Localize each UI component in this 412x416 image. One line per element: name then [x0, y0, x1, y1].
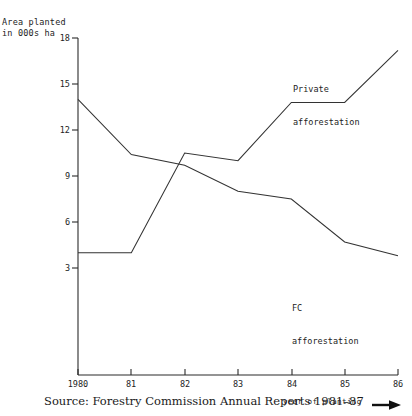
- x-tick-label-86: 86: [386, 379, 410, 389]
- figure-caption: Source: Forestry Commission Annual Repor…: [0, 392, 412, 416]
- x-tick-label-81: 81: [118, 379, 144, 389]
- x-axis-title: year of planting: [283, 397, 362, 406]
- arrow-right-icon: [372, 400, 402, 410]
- y-axis-ticks: [72, 38, 78, 268]
- x-tick-label-83: 83: [225, 379, 251, 389]
- x-tick-label-82: 82: [172, 379, 198, 389]
- y-tick-label-3: 3: [48, 263, 70, 273]
- series-annotation-private-line-2: afforestation: [293, 117, 360, 128]
- figure-afforestation-line-chart: Area planted in 000s ha 18 15 1: [0, 0, 412, 416]
- y-tick-label-15: 15: [48, 79, 70, 89]
- x-tick-label-84: 84: [279, 379, 305, 389]
- y-tick-label-6: 6: [48, 217, 70, 227]
- x-tick-label-85: 85: [332, 379, 358, 389]
- y-tick-label-12: 12: [48, 125, 70, 135]
- x-axis-ticks: [78, 369, 398, 375]
- x-tick-label-1980: 1980: [60, 379, 96, 389]
- series-annotation-fc-line-1: FC: [292, 303, 359, 314]
- y-tick-label-9: 9: [48, 171, 70, 181]
- series-annotation-fc-line-2: afforestation: [292, 336, 359, 347]
- series-annotation-private-afforestation: Private afforestation: [293, 62, 360, 150]
- y-tick-label-18: 18: [48, 33, 70, 43]
- series-annotation-fc-afforestation: FC afforestation: [292, 281, 359, 369]
- series-annotation-private-line-1: Private: [293, 84, 360, 95]
